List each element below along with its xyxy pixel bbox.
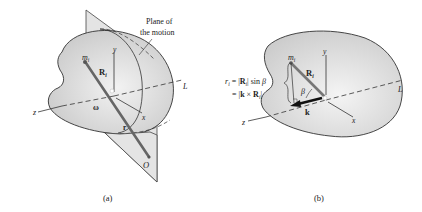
- origin-point-b: [323, 96, 327, 100]
- y-axis-label-b: y: [322, 47, 327, 56]
- beta-label: β: [300, 87, 305, 96]
- panel-a: Plane of the motion mi Ri y L z x ω r O …: [32, 10, 188, 203]
- point-O-label: O: [143, 160, 149, 170]
- x-axis-label-a: x: [141, 113, 146, 122]
- x-axis-label-b: x: [351, 116, 356, 125]
- L-axis-label-a: L: [182, 82, 188, 91]
- z-axis-b: [248, 117, 266, 121]
- origin-point-a: [110, 89, 114, 93]
- z-axis-label-a: z: [32, 108, 37, 117]
- caption-a: (a): [103, 193, 113, 203]
- rigid-body-b: [261, 31, 402, 137]
- panel-b: mi Ri β k y L z x ri = |Ri| sin β = |k ×…: [225, 31, 403, 203]
- y-axis-label-a: y: [112, 45, 117, 54]
- equation-line2: = |k × Ri|: [232, 90, 262, 100]
- rigid-body-rotation-diagram: Plane of the motion mi Ri y L z x ω r O …: [0, 0, 422, 212]
- omega-label: ω: [93, 103, 99, 112]
- z-axis-label-b: z: [241, 118, 246, 127]
- rigid-body-a: [48, 30, 173, 134]
- equation-line1: ri = |Ri| sin β: [225, 77, 266, 87]
- k-vector-label: k: [305, 107, 310, 117]
- caption-b: (b): [314, 193, 324, 203]
- plane-label-line1: Plane of: [146, 17, 173, 26]
- L-axis-label-b: L: [397, 85, 403, 94]
- plane-label-line2: the motion: [140, 28, 174, 37]
